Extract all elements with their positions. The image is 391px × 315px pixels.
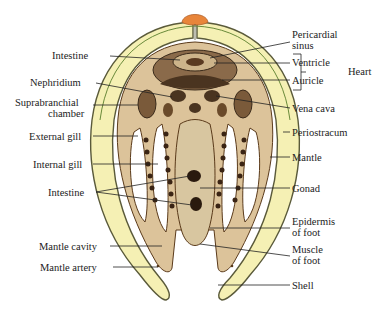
label-muscle-of-foot: of foot [292,255,320,266]
intestine-in-heart [186,58,204,66]
label-epidermis: Epidermis [292,216,335,227]
kidney-blob [170,90,186,102]
mantle-artery-right [231,265,234,268]
label-gonad: Gonad [292,183,320,194]
intestine-loop-2 [190,197,202,211]
label-periostracum: Periostracum [292,127,347,138]
label-suprabranchial: Suprabranchial [15,97,79,108]
foot [175,120,215,246]
label-mantle-artery: Mantle artery [40,262,97,273]
label-shell: Shell [292,280,314,291]
vena-cava-shape [189,103,201,113]
label-heart: Heart [348,66,371,77]
faint-caption [95,302,305,310]
kidney-blob [163,103,173,117]
label-chamber: chamber [48,108,84,119]
nephridium-left [138,90,156,118]
label-external-gill: External gill [29,131,81,142]
label-auricle: Auricle [292,75,324,86]
label-ventricle: Ventricle [292,57,330,68]
hinge-ligament [182,15,208,26]
label-pericardial: Pericardial [292,29,337,40]
label-mantle-cavity: Mantle cavity [39,241,97,252]
label-intestine-top: Intestine [52,50,88,61]
label-mantle: Mantle [292,152,322,163]
label-intestine-bottom: Intestine [48,187,84,198]
kidney-blob [217,103,227,117]
label-internal-gill: Internal gill [33,159,82,170]
label-epidermis-of-foot: of foot [292,227,320,238]
nephridium-right [234,90,252,118]
label-sinus: sinus [292,40,314,51]
label-muscle: Muscle [292,244,323,255]
label-nephridium: Nephridium [30,77,81,88]
label-vena-cava: Vena cava [292,103,335,114]
